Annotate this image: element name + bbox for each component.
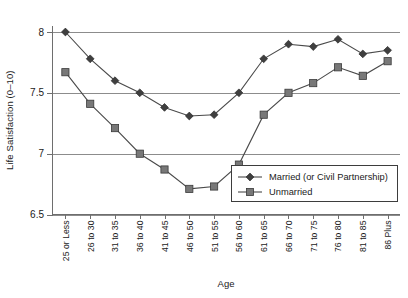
x-tick-label: 86 Plus [383, 221, 393, 250]
data-point [384, 58, 391, 65]
data-point [186, 185, 193, 192]
x-axis-title: Age [218, 278, 235, 289]
data-point [62, 69, 69, 76]
y-axis-title: Life Satisfaction (0–10) [4, 70, 15, 170]
legend-marker [246, 188, 253, 195]
y-tick-label: 8 [38, 27, 44, 38]
data-point [359, 72, 366, 79]
data-point [260, 55, 268, 63]
data-point [285, 40, 293, 48]
data-point [185, 112, 193, 120]
legend-box [232, 166, 398, 202]
data-point [136, 150, 143, 157]
data-point [161, 104, 169, 112]
x-tick-label: 36 to 40 [135, 220, 145, 252]
data-point [334, 64, 341, 71]
chart-canvas: 6.577.58 25 or Less26 to 3031 to 3536 to… [0, 0, 408, 298]
y-tick-label: 7.5 [30, 87, 44, 98]
x-tick-label: 61 to 65 [259, 220, 269, 252]
data-point [161, 166, 168, 173]
data-point [87, 100, 94, 107]
data-point [211, 183, 218, 190]
data-point [384, 46, 392, 54]
y-tick-labels-group: 6.577.58 [30, 27, 44, 221]
x-tick-label: 31 to 35 [110, 220, 120, 252]
y-tick-label: 6.5 [30, 209, 44, 220]
data-point [310, 80, 317, 87]
life-satisfaction-by-age-chart: 6.577.58 25 or Less26 to 3031 to 3536 to… [0, 0, 408, 298]
legend-label: Unmarried [269, 187, 312, 197]
data-point [309, 43, 317, 51]
chart-legend: Married (or Civil Partnership)Unmarried [232, 166, 398, 202]
data-point [285, 89, 292, 96]
y-tick-label: 7 [38, 148, 44, 159]
x-tick-label: 56 to 60 [234, 220, 244, 252]
x-tick-label: 66 to 70 [284, 220, 294, 252]
series-line [65, 32, 387, 116]
x-tick-label: 81 to 85 [358, 220, 368, 252]
x-tick-label: 51 to 55 [210, 220, 220, 252]
x-tick-labels-group: 25 or Less26 to 3031 to 3536 to 4041 to … [61, 220, 393, 261]
x-tick-label: 46 to 50 [185, 220, 195, 252]
x-tick-label: 41 to 45 [160, 220, 170, 252]
x-tick-label: 26 to 30 [86, 220, 96, 252]
series-married [62, 28, 392, 120]
data-point [260, 111, 267, 118]
data-point [136, 89, 144, 97]
legend-label: Married (or Civil Partnership) [269, 172, 388, 182]
x-tick-label: 76 to 80 [333, 220, 343, 252]
x-tick-label: 71 to 75 [309, 220, 319, 252]
data-point [334, 35, 342, 43]
data-point [111, 125, 118, 132]
data-point [359, 50, 367, 58]
x-tick-label: 25 or Less [61, 221, 71, 262]
